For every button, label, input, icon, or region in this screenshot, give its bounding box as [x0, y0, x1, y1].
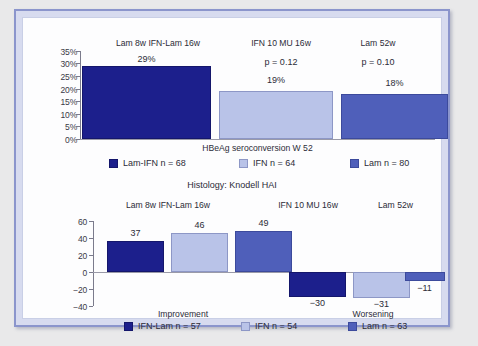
hist-legend-swatch-ifn [241, 322, 250, 331]
hist-bar-value-ifn-worsening: −31 [353, 299, 410, 309]
y-tick-label-20: 20% [37, 85, 77, 95]
hist-legend-item-ifn: IFN n = 54 [241, 321, 297, 331]
hist-y-tick-label-20: 20 [59, 251, 87, 261]
bar-lam [341, 94, 448, 139]
hist-y-tick-label-neg20: −20 [55, 285, 87, 295]
legend-label-lam: Lam n = 80 [364, 158, 409, 168]
hist-y-tick-mark-40 [89, 238, 93, 239]
slide-panel: Lam 8w IFN-Lam 16w IFN 10 MU 16w Lam 52w… [22, 17, 442, 319]
y-tick-mark-10 [76, 114, 80, 115]
bar-value-ifn: 19% [219, 75, 333, 85]
legend-label-ifn: IFN n = 64 [253, 158, 295, 168]
legend-item-lam: Lam n = 80 [350, 158, 409, 168]
legend-item-ifn: IFN n = 64 [239, 158, 295, 168]
hist-bar-value-lam-improvement: 49 [235, 218, 292, 228]
y-tick-label-5: 5% [37, 122, 77, 132]
y-tick-mark-30 [76, 63, 80, 64]
bar-value-lam-ifn: 29% [82, 54, 211, 64]
hist-y-tick-label-neg40: −40 [55, 302, 87, 312]
section-title-histology: Histology: Knodell HAI [23, 180, 441, 190]
y-tick-mark-5 [76, 126, 80, 127]
hist-y-tick-mark-neg20 [89, 289, 93, 290]
hist-legend-swatch-lam [348, 322, 357, 331]
hist-caption-improvement: Improvement [123, 309, 243, 319]
group-header-2: Lam 52w [323, 38, 433, 48]
bar-value-lam: 18% [341, 78, 448, 88]
hist-legend-label-ifn: IFN n = 54 [255, 321, 297, 331]
hist-caption-worsening: Worsening [313, 309, 433, 319]
y-tick-mark-25 [76, 76, 80, 77]
legend-swatch-lam-ifn [109, 159, 118, 168]
legend-swatch-ifn [239, 159, 248, 168]
hist-legend-label-ifn-lam: IFN-Lam n = 57 [138, 321, 201, 331]
x-axis-caption: HBeAg seroconversion W 52 [80, 143, 435, 153]
p-value-lam: p = 0.10 [323, 57, 433, 67]
x-axis-line [80, 139, 435, 140]
y-tick-label-0: 0% [37, 135, 77, 145]
slide-frame: Lam 8w IFN-Lam 16w IFN 10 MU 16w Lam 52w… [14, 9, 450, 327]
y-tick-mark-35 [76, 51, 80, 52]
hist-bar-value-ifn-lam-improvement: 37 [107, 228, 164, 238]
y-axis-line [80, 51, 81, 140]
hist-bar-lam-improvement [235, 231, 292, 272]
hist-legend-label-lam: Lam n = 63 [362, 321, 407, 331]
hist-y-tick-label-0: 0 [59, 268, 87, 278]
y-tick-label-25: 25% [37, 72, 77, 82]
hist-y-tick-mark-20 [89, 255, 93, 256]
hist-legend-swatch-ifn-lam [124, 322, 133, 331]
hist-y-tick-label-60: 60 [59, 217, 87, 227]
chart-hbeag-seroconversion: Lam 8w IFN-Lam 16w IFN 10 MU 16w Lam 52w… [23, 18, 447, 168]
hist-group-header-2: Lam 52w [343, 200, 448, 210]
hist-y-tick-mark-60 [89, 221, 93, 222]
hist-bar-ifn-lam-worsening [289, 272, 346, 297]
legend-swatch-lam [350, 159, 359, 168]
legend-item-lam-ifn: Lam-IFN n = 68 [109, 158, 186, 168]
hist-bar-ifn-lam-improvement [107, 241, 164, 272]
chart-histology-knodell-hai: Lam 8w IFN-Lam 16w IFN 10 MU 16w Lam 52w… [23, 190, 447, 326]
hist-legend-item-ifn-lam: IFN-Lam n = 57 [124, 321, 201, 331]
y-tick-label-15: 15% [37, 97, 77, 107]
hist-bar-ifn-improvement [171, 233, 228, 272]
bar-ifn [219, 91, 333, 139]
hist-bar-lam-worsening [405, 272, 445, 281]
hist-y-axis-line [93, 221, 94, 306]
y-tick-mark-15 [76, 101, 80, 102]
hist-legend-item-lam: Lam n = 63 [348, 321, 407, 331]
bar-lam-ifn [82, 66, 211, 139]
legend-label-lam-ifn: Lam-IFN n = 68 [123, 158, 186, 168]
hist-group-header-0: Lam 8w IFN-Lam 16w [78, 200, 258, 210]
hist-bar-value-ifn-improvement: 46 [171, 220, 228, 230]
hist-bar-value-lam-worsening: −11 [396, 283, 453, 293]
hist-bar-value-ifn-lam-worsening: −30 [289, 298, 346, 308]
y-tick-label-30: 30% [37, 59, 77, 69]
y-tick-mark-20 [76, 89, 80, 90]
y-tick-label-10: 10% [37, 110, 77, 120]
hist-y-tick-mark-neg40 [89, 306, 93, 307]
y-tick-label-35: 35% [37, 47, 77, 57]
hist-y-tick-label-40: 40 [59, 234, 87, 244]
